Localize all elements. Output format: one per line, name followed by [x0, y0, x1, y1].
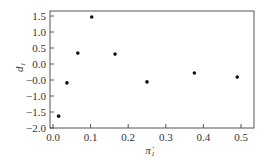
x-tick-label: 0.3: [159, 131, 173, 143]
y-tick-label: −1.5: [26, 106, 46, 118]
y-tick-label: 0.5: [32, 42, 46, 54]
data-point: [145, 80, 149, 84]
x-axis-label: π̇₁: [145, 144, 155, 156]
data-point: [57, 114, 61, 118]
plot-frame: [50, 11, 254, 128]
y-tick-label: 1.5: [32, 10, 46, 22]
data-point: [235, 75, 239, 79]
y-axis-label: d₁: [13, 63, 25, 73]
x-tick-label: 0.2: [121, 131, 135, 143]
y-tick-label: 1.0: [32, 26, 46, 38]
scatter-chart: 1.51.00.50.0−0.0−1.0−1.5−2.0 0.00.10.20.…: [0, 0, 265, 160]
y-tick-label: 0.0: [32, 58, 46, 70]
data-point: [90, 15, 94, 19]
x-tick-label: 0.4: [197, 131, 211, 143]
data-point: [65, 81, 69, 85]
y-tick-label: −1.0: [26, 90, 46, 102]
x-tick-label: 0.1: [84, 131, 98, 143]
x-axis: 0.00.10.20.30.40.5: [46, 124, 248, 143]
data-points: [57, 15, 239, 118]
y-tick-label: −2.0: [26, 122, 46, 134]
x-tick-label: 0.5: [234, 131, 248, 143]
data-point: [193, 71, 197, 75]
x-tick-label: 0.0: [46, 131, 60, 143]
data-point: [76, 51, 80, 55]
y-tick-label: −0.0: [26, 74, 46, 86]
data-point: [113, 52, 117, 56]
